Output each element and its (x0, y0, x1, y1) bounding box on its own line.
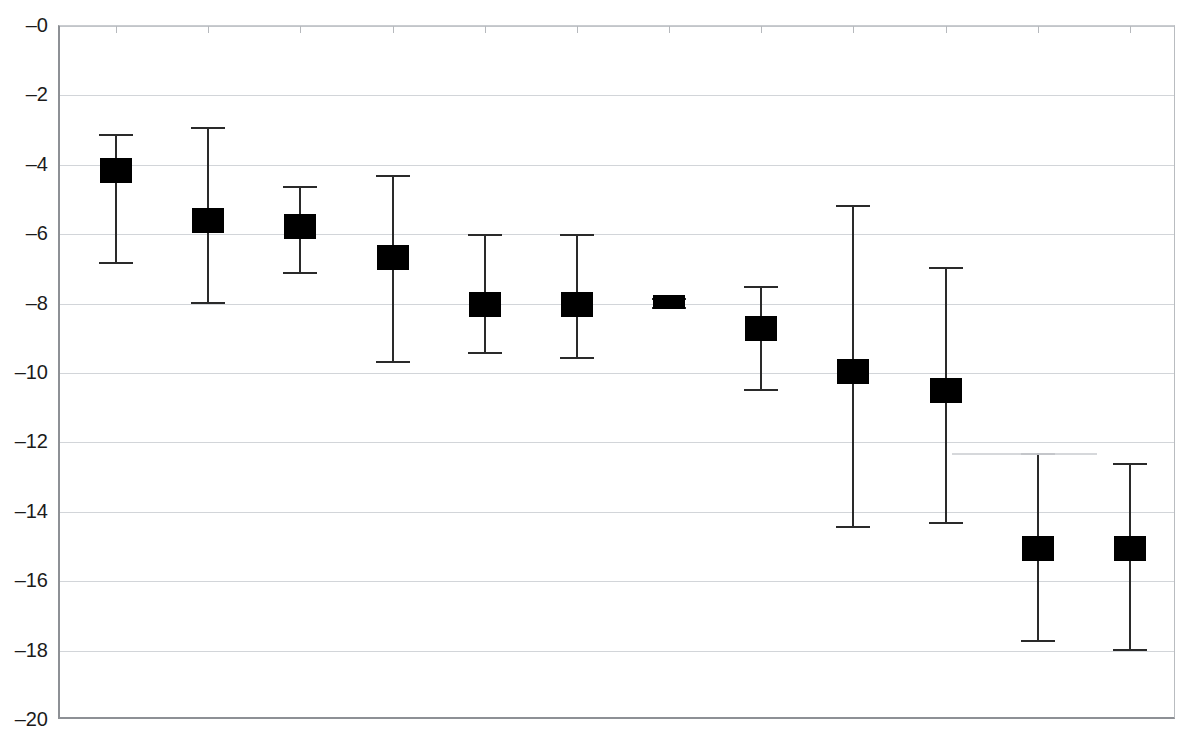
y-axis-tick-label: –8 (26, 293, 48, 313)
error-bar-cap-upper (376, 175, 410, 177)
x-tick-mark (1038, 26, 1039, 33)
data-marker[interactable] (745, 316, 777, 341)
plot-area (58, 25, 1175, 719)
y-axis-tick-label: –12 (15, 431, 48, 451)
x-tick-mark (116, 26, 117, 33)
gridline (60, 651, 1174, 652)
data-marker[interactable] (469, 292, 501, 317)
clipped-header-label (620, 0, 902, 6)
error-bar-cap-lower (560, 357, 594, 359)
y-axis-tick-label: –0 (26, 15, 48, 35)
y-axis-labels: –0–2–4–6–8–10–12–14–16–18–20 (0, 0, 58, 739)
error-bar-cap-lower (99, 262, 133, 264)
gridline (60, 95, 1174, 96)
gridline (60, 165, 1174, 166)
error-bar-chart: –0–2–4–6–8–10–12–14–16–18–20 (0, 0, 1186, 739)
error-bar-cap-upper (468, 234, 502, 236)
error-bar-cap-upper (1113, 463, 1147, 465)
y-axis-tick-label: –16 (15, 570, 48, 590)
x-tick-mark (669, 26, 670, 33)
data-marker[interactable] (100, 158, 132, 183)
x-tick-mark (577, 26, 578, 33)
gridline (60, 512, 1174, 513)
y-axis-tick-label: –20 (15, 709, 48, 729)
y-axis-tick-label: –14 (15, 501, 48, 521)
x-tick-mark (946, 26, 947, 33)
error-bar-cap-lower (468, 352, 502, 354)
data-marker[interactable] (284, 214, 316, 239)
gridline (60, 442, 1174, 443)
x-tick-mark (393, 26, 394, 33)
error-bar-line (115, 134, 117, 262)
data-marker[interactable] (192, 208, 224, 233)
error-bar-cap-upper (560, 234, 594, 236)
x-tick-mark (300, 26, 301, 33)
gridline (60, 26, 1174, 27)
gridline (60, 373, 1174, 374)
x-tick-mark (1130, 26, 1131, 33)
error-bar-cap-upper (929, 267, 963, 269)
x-tick-mark (485, 26, 486, 33)
error-bar-cap-upper (283, 186, 317, 188)
y-axis-tick-label: –4 (26, 154, 48, 174)
error-bar-cap-lower (283, 272, 317, 274)
error-bar-cap-lower (929, 522, 963, 524)
error-bar-cap-lower (1113, 649, 1147, 651)
y-axis-tick-label: –6 (26, 223, 48, 243)
x-tick-mark (761, 26, 762, 33)
render-artifact-line (952, 453, 1097, 455)
y-axis-tick-label: –10 (15, 362, 48, 382)
error-bar-cap-upper (836, 205, 870, 207)
gridline (60, 581, 1174, 582)
error-bar-cap-lower (376, 361, 410, 363)
y-axis-tick-label: –18 (15, 640, 48, 660)
x-tick-mark (208, 26, 209, 33)
gridline (60, 234, 1174, 235)
data-marker[interactable] (1022, 536, 1054, 561)
error-bar-cap-lower (191, 302, 225, 304)
gridline (60, 304, 1174, 305)
error-bar-cap-lower (1021, 640, 1055, 642)
error-bar-cap-upper (99, 134, 133, 136)
data-marker[interactable] (561, 292, 593, 317)
x-tick-mark (853, 26, 854, 33)
data-marker[interactable] (1114, 536, 1146, 561)
error-bar-cap-lower (744, 389, 778, 391)
data-marker[interactable] (930, 378, 962, 403)
error-bar-cap-upper (744, 286, 778, 288)
error-bar-cap-lower (836, 526, 870, 528)
clipped-header-text (0, 0, 1186, 13)
data-marker[interactable] (377, 245, 409, 270)
data-marker[interactable] (837, 359, 869, 384)
data-marker[interactable] (653, 295, 685, 309)
error-bar-cap-upper (191, 127, 225, 129)
y-axis-tick-label: –2 (26, 84, 48, 104)
